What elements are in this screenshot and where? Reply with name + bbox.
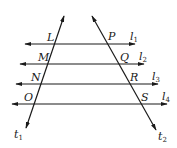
point-label-o: O bbox=[24, 91, 33, 104]
transversal-label-t2: t2 bbox=[158, 130, 167, 144]
point-label-l: L bbox=[46, 31, 54, 44]
line-label-l1: l1 bbox=[130, 30, 138, 44]
point-label-m: M bbox=[37, 51, 50, 64]
point-label-p: P bbox=[107, 30, 116, 43]
point-label-s: S bbox=[141, 91, 149, 104]
line-label-l4: l4 bbox=[162, 90, 171, 104]
transversal-t2 bbox=[92, 16, 156, 130]
point-label-n: N bbox=[30, 71, 41, 84]
line-label-l3: l3 bbox=[152, 70, 160, 84]
point-label-q: Q bbox=[120, 51, 129, 64]
line-label-l2: l2 bbox=[139, 50, 147, 64]
geometry-diagram: l1l2l3l4 t1t2 LMNOPQRS bbox=[0, 0, 177, 148]
point-label-r: R bbox=[129, 71, 138, 84]
transversal-label-t1: t1 bbox=[14, 128, 23, 142]
